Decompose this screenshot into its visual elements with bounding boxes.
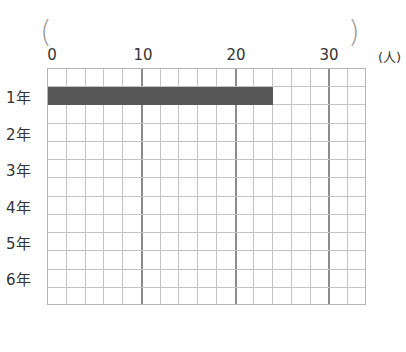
row-label-grade-2: 2年 (6, 123, 31, 144)
grid-hline (48, 141, 365, 142)
row-label-grade-4: 4年 (6, 196, 31, 217)
row-label-grade-3: 3年 (6, 159, 31, 180)
x-tick-10: 10 (133, 46, 152, 64)
grid-hline (48, 159, 365, 160)
grid-hline (48, 123, 365, 124)
chart-grid (47, 68, 366, 305)
grid-hline (48, 269, 365, 270)
x-tick-0: 0 (47, 46, 57, 64)
row-label-grade-5: 5年 (6, 232, 31, 253)
x-tick-20: 20 (226, 46, 245, 64)
x-tick-30: 30 (319, 46, 338, 64)
grid-hline (48, 177, 365, 178)
grid-hline (48, 214, 365, 215)
grid-hline (48, 287, 365, 288)
cut-off-title (60, 0, 390, 6)
grid-hline (48, 232, 365, 233)
grid-hline (48, 196, 365, 197)
x-axis-unit: (人) (378, 47, 401, 66)
row-label-grade-6: 6年 (6, 268, 31, 289)
answer-blank-close-paren: ) (348, 14, 360, 49)
grid-hline (48, 250, 365, 251)
row-label-grade-1: 1年 (6, 86, 31, 107)
bar-1年 (48, 87, 273, 105)
answer-blank-open-paren: ( (40, 14, 52, 49)
